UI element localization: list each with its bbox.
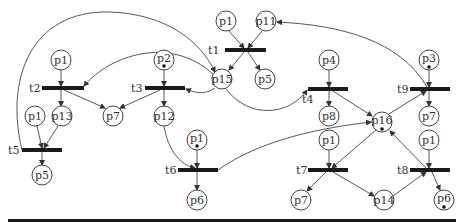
transition-label-t1: t1 xyxy=(208,44,219,57)
place-p1-t1-input[interactable]: p1 xyxy=(216,11,236,31)
token xyxy=(427,65,431,69)
petri-net-diagram: t1 t2 t3 t4 t5 t6 t7 t8 t9 p1 p11 p15 xyxy=(0,0,465,224)
place-label: p5 xyxy=(258,73,272,86)
arc-p16-t7 xyxy=(332,130,376,168)
transition-t6[interactable] xyxy=(178,168,218,172)
transition-label-t5: t5 xyxy=(8,144,19,157)
place-p1-t8-input[interactable]: p1 xyxy=(419,130,439,150)
place-p8[interactable]: p8 xyxy=(319,106,339,126)
transition-t3[interactable] xyxy=(145,86,185,90)
place-p7-t2-t3-output[interactable]: p7 xyxy=(103,106,123,126)
place-label: p1 xyxy=(422,134,436,147)
place-label: p14 xyxy=(373,194,394,207)
place-label: p1 xyxy=(190,132,204,145)
arc-t9-p11 xyxy=(277,22,427,87)
place-p7-t7-output[interactable]: p7 xyxy=(291,190,311,210)
place-p14[interactable]: p14 xyxy=(373,190,394,210)
token xyxy=(195,144,199,148)
place-p4[interactable]: p4 xyxy=(319,50,339,70)
place-label: p5 xyxy=(35,169,49,182)
place-label: p6 xyxy=(437,192,451,205)
place-label: p12 xyxy=(153,110,174,123)
arc-t1-p15 xyxy=(229,52,244,70)
places: p1 p11 p15 p5 p1 p2 p1 p13 xyxy=(25,11,454,210)
place-p3[interactable]: p3 xyxy=(419,50,439,70)
place-p11[interactable]: p11 xyxy=(255,11,276,31)
place-label: p1 xyxy=(54,54,68,67)
transition-label-t3: t3 xyxy=(131,82,142,95)
place-p5-t5-output[interactable]: p5 xyxy=(32,165,52,185)
place-label: p7 xyxy=(106,110,120,123)
transition-label-t7: t7 xyxy=(296,164,307,177)
transition-label-t8: t8 xyxy=(397,164,408,177)
token xyxy=(380,127,384,131)
arc-p11-t1 xyxy=(248,31,262,48)
transition-t1[interactable] xyxy=(225,48,266,52)
transition-t8[interactable] xyxy=(410,168,450,172)
transition-t4[interactable] xyxy=(308,87,348,91)
place-p1-t7-input[interactable]: p1 xyxy=(319,130,339,150)
transition-t2[interactable] xyxy=(42,86,84,90)
place-p5-t1-output[interactable]: p5 xyxy=(255,69,275,89)
transition-t7[interactable] xyxy=(308,168,348,172)
place-p1-t2-input[interactable]: p1 xyxy=(51,50,71,70)
place-label: p16 xyxy=(371,114,392,127)
place-label: p15 xyxy=(211,73,232,86)
arc-p15-t3 xyxy=(186,88,215,93)
place-label: p8 xyxy=(322,110,336,123)
place-label: p2 xyxy=(157,52,171,65)
arc-t4-p16 xyxy=(333,91,372,116)
arc-t1-p5 xyxy=(248,52,260,70)
arc-t5-p15 xyxy=(17,12,215,150)
transition-t9[interactable] xyxy=(410,87,450,91)
arc-t2-p7 xyxy=(64,90,105,108)
transition-label-t4: t4 xyxy=(302,93,313,106)
arc-t7-p7 xyxy=(307,172,326,191)
arc-p15-t2 xyxy=(84,52,213,86)
token xyxy=(442,205,446,209)
place-p12[interactable]: p12 xyxy=(153,106,174,126)
place-p1-t6-input[interactable]: p1 xyxy=(187,130,207,150)
place-label: p4 xyxy=(322,54,336,67)
place-p6-t6-output[interactable]: p6 xyxy=(187,190,207,210)
arc-p15-t4 xyxy=(226,89,307,111)
place-label: p13 xyxy=(51,110,72,123)
arc-p1-t1 xyxy=(229,31,244,48)
place-label: p7 xyxy=(422,110,436,123)
arc-t7-p14 xyxy=(333,172,374,196)
transition-t5[interactable] xyxy=(22,148,62,152)
transition-label-t9: t9 xyxy=(397,83,408,96)
place-label: p1 xyxy=(219,15,233,28)
place-label: p7 xyxy=(294,194,308,207)
arc-t8-p6 xyxy=(432,172,440,190)
bottom-divider xyxy=(8,219,456,222)
arc-p13-t5 xyxy=(44,126,58,148)
arcs xyxy=(17,12,440,196)
arc-p1-t5 xyxy=(37,126,42,148)
place-p7-t9-output[interactable]: p7 xyxy=(419,106,439,126)
place-label: p6 xyxy=(190,194,204,207)
place-p15[interactable]: p15 xyxy=(211,69,232,89)
place-p2[interactable]: p2 xyxy=(154,50,174,70)
place-p1-t5-input[interactable]: p1 xyxy=(25,106,45,126)
arc-t6-p16 xyxy=(218,122,371,170)
place-label: p3 xyxy=(422,52,436,65)
place-label: p1 xyxy=(28,110,42,123)
transitions: t1 t2 t3 t4 t5 t6 t7 t8 t9 xyxy=(8,44,450,177)
place-p6-t8-output[interactable]: p6 xyxy=(434,190,454,210)
place-p13[interactable]: p13 xyxy=(51,106,72,126)
place-label: p1 xyxy=(322,134,336,147)
transition-label-t6: t6 xyxy=(165,164,176,177)
place-p16[interactable]: p16 xyxy=(371,112,392,132)
place-label: p11 xyxy=(255,15,276,28)
token xyxy=(162,64,166,68)
transition-label-t2: t2 xyxy=(29,82,40,95)
